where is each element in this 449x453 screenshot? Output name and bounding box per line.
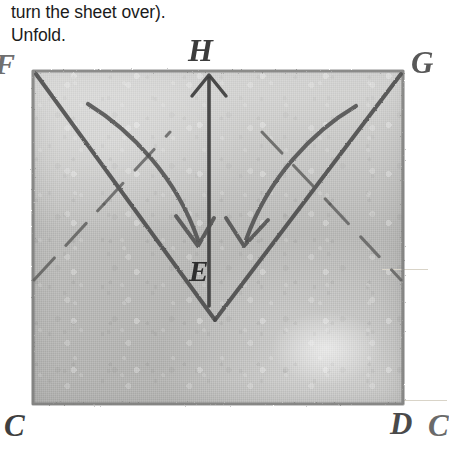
paper-upper-shading: [32, 70, 404, 231]
vertex-label-h: H: [188, 34, 213, 66]
vertex-label-e: E: [189, 257, 208, 286]
registration-tick-lower: [404, 400, 447, 401]
paper-texture-noise: [32, 70, 404, 405]
paper-sheet: [32, 70, 404, 405]
origami-diagram: F H G E C D C: [0, 44, 447, 453]
vertex-label-d: D: [390, 408, 412, 439]
vertex-label-g: G: [411, 47, 433, 78]
vertex-label-c-secondary: C: [428, 410, 449, 441]
instruction-line-1: turn the sheet over).: [11, 1, 166, 24]
vertex-label-c: C: [4, 410, 25, 441]
paper-highlight: [270, 311, 382, 385]
vertex-label-f: F: [0, 49, 15, 79]
registration-tick-upper: [382, 269, 428, 270]
